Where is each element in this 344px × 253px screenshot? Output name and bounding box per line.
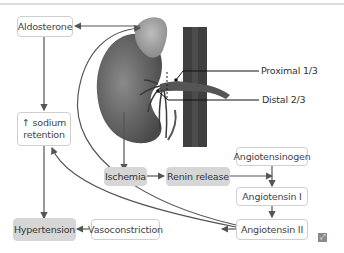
node-sodium-retention: ↑ sodium retention: [17, 112, 71, 146]
node-vasoconstriction-label: Vasoconstriction: [88, 224, 163, 236]
node-sodium-line2: retention: [23, 129, 65, 141]
node-angiotensin-1-label: Angiotensin I: [242, 191, 301, 203]
node-sodium-line1: ↑ sodium: [22, 117, 66, 129]
node-aldosterone: Aldosterone: [17, 16, 73, 37]
node-angiotensin-2: Angiotensin II: [236, 219, 308, 240]
node-angiotensin-2-label: Angiotensin II: [241, 224, 303, 236]
node-ischemia-label: Ischemia: [105, 171, 146, 183]
label-distal: Distal 2/3: [262, 94, 305, 105]
node-ischemia: Ischemia: [104, 167, 147, 186]
node-angiotensin-1: Angiotensin I: [236, 187, 308, 206]
node-angiotensinogen: Angiotensinogen: [236, 147, 308, 166]
node-renin-release: Renin release: [166, 167, 230, 186]
node-angiotensinogen-label: Angiotensinogen: [234, 151, 311, 163]
node-aldosterone-label: Aldosterone: [18, 21, 73, 33]
node-hypertension: Hypertension: [13, 218, 76, 241]
label-proximal: Proximal 1/3: [261, 65, 318, 76]
expand-icon[interactable]: ⤢: [318, 233, 327, 242]
node-hypertension-label: Hypertension: [14, 224, 75, 236]
node-vasoconstriction: Vasoconstriction: [91, 219, 160, 240]
node-renin-label: Renin release: [167, 171, 229, 183]
